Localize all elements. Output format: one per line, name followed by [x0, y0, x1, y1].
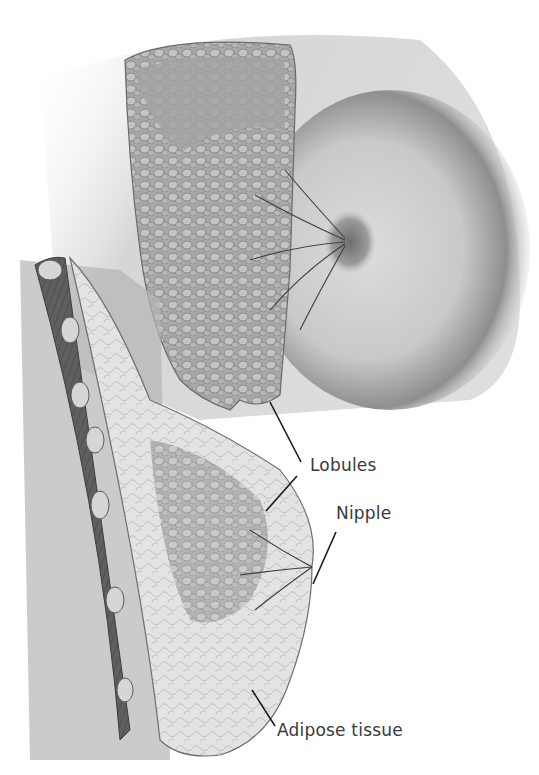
label-lobules: Lobules [310, 455, 377, 475]
areola [324, 210, 376, 274]
illustration-svg [0, 0, 539, 775]
leader-nipple [313, 532, 336, 584]
anatomy-illustration: Lobules Nipple Adipose tissue [0, 0, 539, 775]
label-adipose-tissue: Adipose tissue [277, 720, 403, 740]
label-nipple: Nipple [336, 503, 391, 523]
